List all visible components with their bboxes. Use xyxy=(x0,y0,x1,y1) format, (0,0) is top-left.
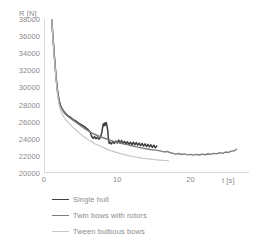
y-tick-label: 28000 xyxy=(19,100,40,109)
plot-area xyxy=(44,19,249,173)
y-tick-label: 26000 xyxy=(19,117,40,126)
series-line xyxy=(52,19,237,155)
x-axis-tick-labels: 01020 xyxy=(44,175,249,187)
legend-item[interactable]: Tween bulbous bows xyxy=(52,223,252,239)
y-tick-label: 34000 xyxy=(19,49,40,58)
plot-svg xyxy=(44,19,249,173)
legend-item[interactable]: Twin bows with rotors xyxy=(52,207,252,223)
x-tick-label: 10 xyxy=(113,175,122,184)
legend-label: Single hull xyxy=(73,195,109,204)
legend-color-swatch xyxy=(52,199,69,200)
series-line xyxy=(52,19,157,148)
x-tick-label: 0 xyxy=(42,175,46,184)
y-tick-label: 20000 xyxy=(19,169,40,178)
y-tick-label: 30000 xyxy=(19,83,40,92)
axis-lines xyxy=(44,19,249,173)
chart-legend: Single hullTwin bows with rotorsTween bu… xyxy=(52,191,252,239)
data-series-group xyxy=(52,19,237,161)
y-tick-label: 32000 xyxy=(19,66,40,75)
legend-label: Tween bulbous bows xyxy=(73,227,145,236)
x-tick-label: 20 xyxy=(186,175,195,184)
legend-label: Twin bows with rotors xyxy=(73,211,147,220)
x-axis-title: t [s] xyxy=(222,176,235,185)
legend-color-swatch xyxy=(52,215,69,216)
y-tick-label: 24000 xyxy=(19,134,40,143)
y-tick-label: 38000 xyxy=(19,15,40,24)
y-axis-tick-labels: 2000022000240002600028000300003200034000… xyxy=(0,19,44,173)
legend-item[interactable]: Single hull xyxy=(52,191,252,207)
chart-container: R [N] 2000022000240002600028000300003200… xyxy=(0,0,263,245)
y-tick-label: 36000 xyxy=(19,32,40,41)
y-tick-label: 22000 xyxy=(19,151,40,160)
legend-color-swatch xyxy=(52,231,69,232)
